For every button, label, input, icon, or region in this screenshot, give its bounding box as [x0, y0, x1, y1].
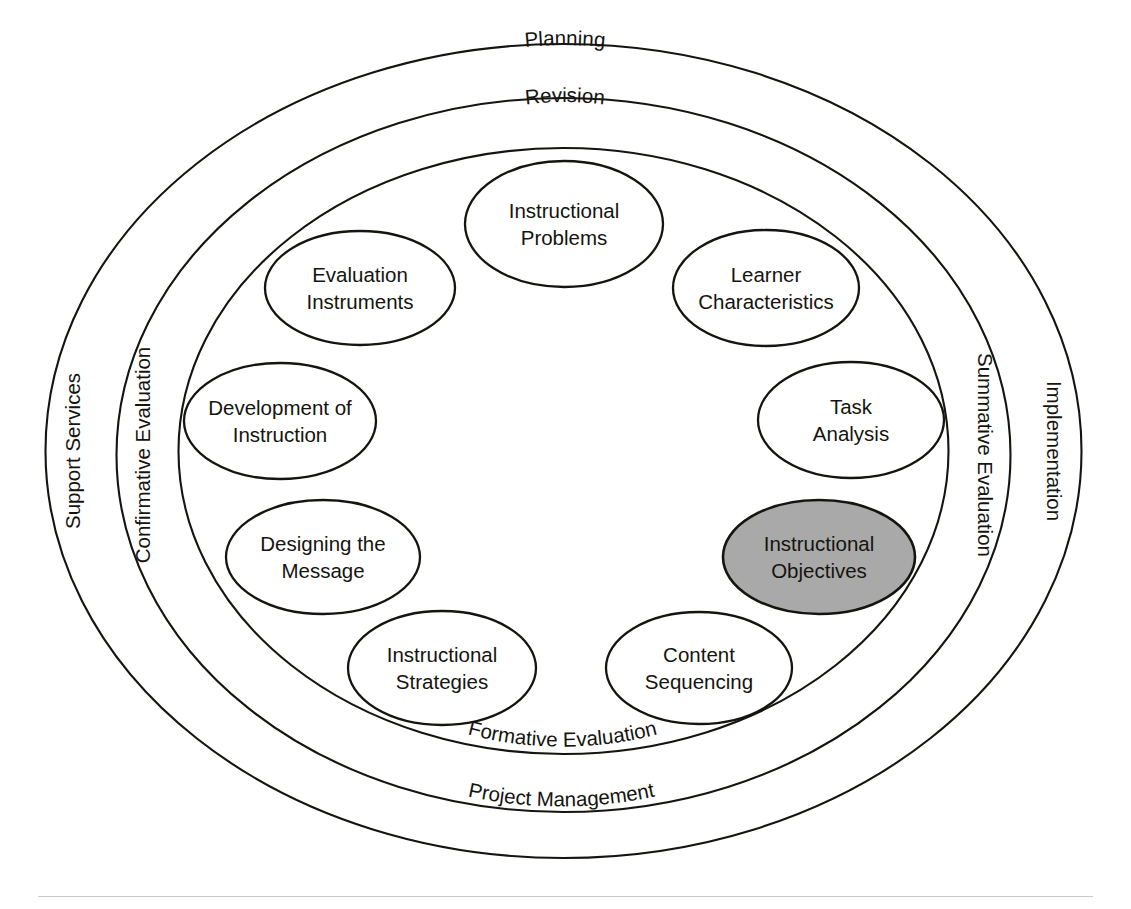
node-label-line2: Characteristics [698, 290, 834, 313]
ring-label-formative-evaluation: Formative Evaluation [466, 716, 658, 751]
node-shape [758, 362, 944, 478]
node-label-line2: Strategies [396, 670, 488, 693]
instructional-design-model-diagram: Planning Revision Formative Evaluation P… [0, 0, 1131, 909]
node-label-line1: Evaluation [312, 263, 408, 286]
ring-label-support-services: Support Services [61, 373, 84, 529]
node-shape [184, 363, 376, 479]
node-shape [465, 161, 663, 287]
page-bottom-rule [38, 896, 1093, 897]
ring-label-summative-evaluation: Summative Evaluation [974, 353, 997, 557]
node-shape [606, 612, 792, 724]
node-shape [265, 231, 455, 345]
node-evaluation-instruments[interactable]: Evaluation Instruments [265, 231, 455, 345]
node-instructional-strategies[interactable]: Instructional Strategies [348, 611, 536, 725]
node-task-analysis[interactable]: Task Analysis [758, 362, 944, 478]
node-label-line1: Content [663, 643, 735, 666]
node-label-line2: Instruction [233, 423, 328, 446]
node-instructional-problems[interactable]: Instructional Problems [465, 161, 663, 287]
node-label-line2: Objectives [771, 559, 867, 582]
ring-label-implementation: Implementation [1043, 381, 1066, 521]
node-shape [226, 500, 420, 614]
node-shape [348, 611, 536, 725]
node-label-line1: Designing the [260, 532, 385, 555]
ring-label-revision: Revision [524, 83, 606, 108]
ring-label-planning: Planning [523, 26, 606, 51]
node-label-line2: Analysis [813, 422, 889, 445]
node-label-line1: Instructional [509, 199, 620, 222]
node-designing-the-message[interactable]: Designing the Message [226, 500, 420, 614]
node-instructional-objectives[interactable]: Instructional Objectives [723, 500, 915, 614]
node-shape [673, 230, 859, 346]
ring-label-project-management-text: Project Management [467, 778, 657, 811]
node-label-line2: Problems [521, 226, 608, 249]
node-shape-highlighted [723, 500, 915, 614]
node-label-line1: Development of [208, 396, 352, 419]
node-label-line1: Learner [731, 263, 802, 286]
ring-label-confirmative-evaluation: Confirmative Evaluation [131, 347, 154, 564]
node-development-of-instruction[interactable]: Development of Instruction [184, 363, 376, 479]
node-label-line2: Sequencing [645, 670, 753, 693]
node-label-line1: Task [830, 395, 873, 418]
ring-label-revision-text: Revision [524, 83, 606, 108]
ring-label-planning-text: Planning [523, 26, 606, 51]
ring-label-project-management: Project Management [467, 778, 657, 811]
node-label-line2: Message [281, 559, 364, 582]
diagram-canvas: Planning Revision Formative Evaluation P… [0, 0, 1131, 909]
node-learner-characteristics[interactable]: Learner Characteristics [673, 230, 859, 346]
ring-label-formative-evaluation-text: Formative Evaluation [466, 716, 658, 751]
node-label-line1: Instructional [764, 532, 875, 555]
node-content-sequencing[interactable]: Content Sequencing [606, 612, 792, 724]
node-label-line1: Instructional [387, 643, 498, 666]
node-label-line2: Instruments [306, 290, 413, 313]
